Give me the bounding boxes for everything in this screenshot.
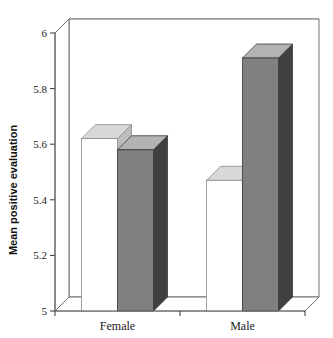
- bar-male-series-2: [243, 44, 293, 311]
- y-axis-tick-label: 6: [42, 27, 48, 39]
- y-axis-tick-label: 5.6: [33, 138, 47, 150]
- y-axis-tick-label: 5.8: [33, 83, 47, 95]
- x-axis-tick-labels: FemaleMale: [100, 319, 255, 333]
- y-axis-tick-labels: 55.25.45.65.86: [33, 27, 47, 317]
- bar-side-face: [154, 136, 168, 311]
- y-axis-tick-label: 5.4: [33, 194, 47, 206]
- left-wall: [55, 19, 69, 311]
- y-axis-title-text: Mean positive evaluation: [7, 125, 19, 255]
- bar-front-face: [118, 150, 154, 311]
- y-axis-title: Mean positive evaluation: [7, 125, 19, 255]
- bar-female-series-2: [118, 136, 168, 311]
- y-axis-tick-label: 5: [42, 305, 48, 317]
- y-axis-tick-label: 5.2: [33, 249, 47, 261]
- bar-front-face: [82, 139, 118, 311]
- bar-side-face: [279, 44, 293, 311]
- chart-canvas: 55.25.45.65.86 FemaleMale Mean positive …: [0, 0, 333, 338]
- bar-front-face: [207, 180, 243, 311]
- x-axis-tick-label: Male: [230, 319, 255, 333]
- x-axis-tick-label: Female: [100, 319, 135, 333]
- bar-chart-figure: 55.25.45.65.86 FemaleMale Mean positive …: [0, 0, 333, 338]
- bar-front-face: [243, 58, 279, 311]
